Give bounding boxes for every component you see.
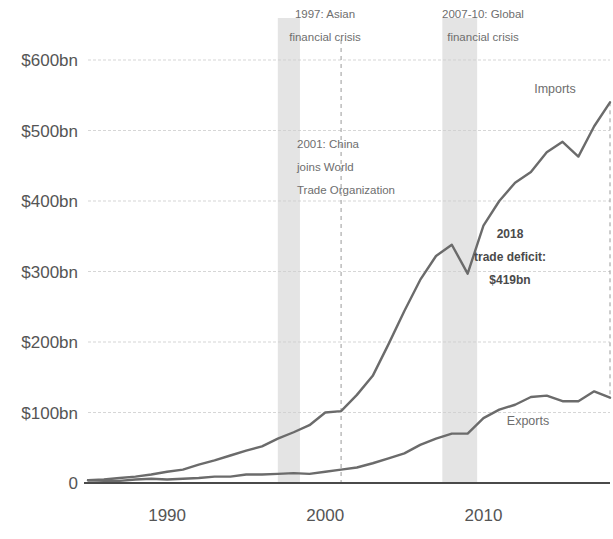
x-axis-labels: 199020002010 <box>148 506 502 525</box>
x-tick-label-1990: 1990 <box>148 506 186 525</box>
asian-crisis-annotation-line-0: 1997: Asian <box>295 8 355 20</box>
y-tick-label-400: $400bn <box>21 192 78 211</box>
wto-annotation-line-1: joins World <box>296 161 354 173</box>
x-tick-label-2010: 2010 <box>465 506 503 525</box>
series-line-exports <box>88 391 610 481</box>
x-tick-label-2000: 2000 <box>306 506 344 525</box>
trade-deficit-annotation-line-0: 2018 <box>497 227 524 241</box>
trade-deficit-annotation-line-2: $419bn <box>489 273 530 287</box>
wto-annotation-line-2: Trade Organization <box>297 184 395 196</box>
trade-deficit-annotation: 2018trade deficit:$419bn <box>474 227 546 287</box>
trade-deficit-annotation-line-1: trade deficit: <box>474 250 546 264</box>
recession-band-0 <box>278 18 300 483</box>
y-tick-label-200: $200bn <box>21 333 78 352</box>
recession-band-1 <box>442 18 477 483</box>
global-crisis-annotation-line-1: financial crisis <box>447 31 519 43</box>
chart-canvas: 0$100bn$200bn$300bn$400bn$500bn$600bn 19… <box>0 0 613 539</box>
y-tick-label-100: $100bn <box>21 404 78 423</box>
asian-crisis-annotation-line-1: financial crisis <box>289 31 361 43</box>
wto-annotation: 2001: Chinajoins WorldTrade Organization <box>296 138 395 196</box>
y-axis-labels: 0$100bn$200bn$300bn$400bn$500bn$600bn <box>21 51 78 493</box>
wto-annotation-line-0: 2001: China <box>297 138 360 150</box>
recession-bands <box>278 18 477 483</box>
exports-series-label: Exports <box>507 414 549 428</box>
y-tick-label-500: $500bn <box>21 122 78 141</box>
imports-series-label: Imports <box>534 82 576 96</box>
global-crisis-annotation-line-0: 2007-10: Global <box>442 8 524 20</box>
trade-chart: 0$100bn$200bn$300bn$400bn$500bn$600bn 19… <box>0 0 613 539</box>
asian-crisis-annotation: 1997: Asianfinancial crisis <box>289 8 361 43</box>
gridlines <box>88 60 610 413</box>
chart-annotations: 1997: Asianfinancial crisis2007-10: Glob… <box>289 8 546 287</box>
y-tick-label-300: $300bn <box>21 263 78 282</box>
y-tick-label-0: 0 <box>69 474 78 493</box>
y-tick-label-600: $600bn <box>21 51 78 70</box>
